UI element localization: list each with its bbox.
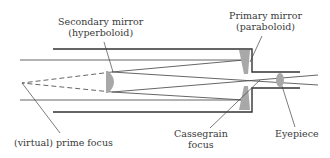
eyepiece-label: Eyepiece xyxy=(275,128,319,139)
cassegrain-focus-label-line2: focus xyxy=(174,139,228,150)
secondary-reflected-rays xyxy=(112,72,318,92)
telescope-tube xyxy=(53,49,300,112)
virtual-rays xyxy=(22,72,112,92)
secondary-mirror-label-line1: Secondary mirror xyxy=(58,16,143,27)
secondary-mirror xyxy=(106,71,114,93)
virtual-prime-focus-label: (virtual) prime focus xyxy=(14,137,113,148)
eyepiece-lens xyxy=(276,73,284,87)
leader-lines xyxy=(22,36,295,133)
primary-mirror-label-line1: Primary mirror xyxy=(229,10,302,21)
cassegrain-focus-label: Cassegrain focus xyxy=(174,128,228,150)
primary-mirror-label: Primary mirror (paraboloid) xyxy=(229,10,302,32)
primary-reflected-rays xyxy=(112,60,244,100)
primary-mirror-upper xyxy=(239,50,250,74)
primary-mirror-lower xyxy=(239,86,250,110)
primary-mirror-label-line2: (paraboloid) xyxy=(229,21,302,32)
secondary-mirror-label-line2: (hyperboloid) xyxy=(58,27,143,38)
incoming-rays xyxy=(20,60,244,100)
secondary-mirror-label: Secondary mirror (hyperboloid) xyxy=(58,16,143,38)
cassegrain-focus-label-line1: Cassegrain xyxy=(174,128,228,139)
